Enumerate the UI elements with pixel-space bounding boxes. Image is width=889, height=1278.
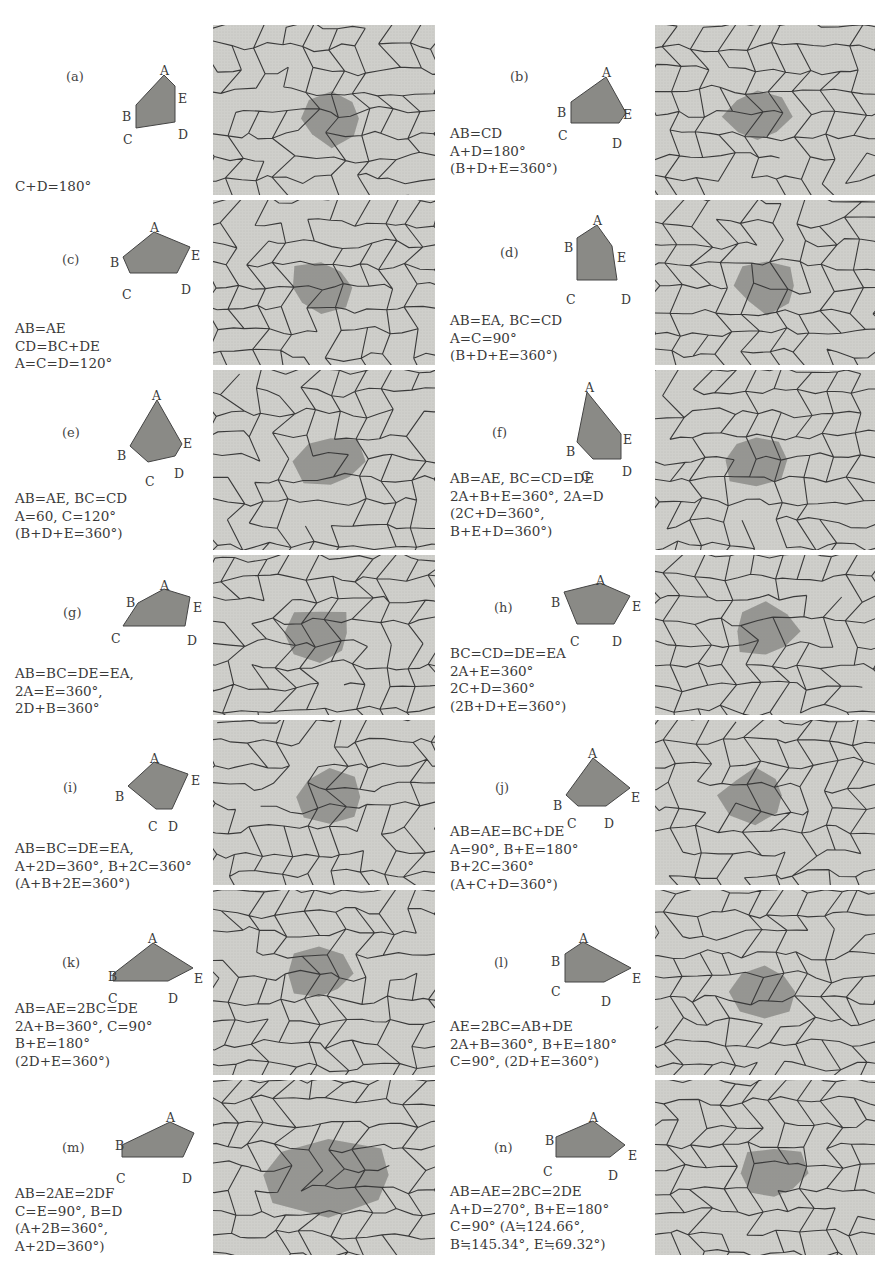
pentagon-shape: ABCDE [440, 200, 660, 340]
condition-line: A=C=D=120° [15, 355, 112, 373]
vertex-label-d: D [621, 292, 631, 307]
vertex-label-c: C [108, 991, 118, 1006]
vertex-label-c: C [148, 819, 158, 834]
vertex-label-d: D [181, 282, 191, 297]
condition-line: (B+D+E=360°) [450, 347, 562, 365]
vertex-label-c: C [145, 474, 155, 489]
vertex-label-a: A [149, 220, 160, 235]
condition-line: B+2C=360° [450, 858, 579, 876]
pentagon-shape: ABCDE [440, 555, 660, 695]
vertex-label-a: A [149, 751, 160, 766]
tiling-pattern [655, 890, 875, 1075]
pentagon-shape: ABCDE [0, 720, 220, 860]
vertex-label-e: E [617, 250, 626, 265]
vertex-label-e: E [623, 432, 632, 447]
vertex-label-b: B [551, 595, 560, 610]
condition-line: (A+B+2E=360°) [15, 875, 192, 893]
vertex-label-c: C [122, 287, 132, 302]
vertex-label-b: B [545, 1133, 554, 1148]
vertex-label-c: C [543, 1164, 553, 1179]
vertex-label-b: B [553, 798, 562, 813]
tiling-pattern [213, 370, 435, 550]
vertex-label-c: C [123, 132, 133, 147]
condition-line: 2D+B=360° [15, 700, 134, 718]
pentagon-shape: ABCDE [0, 400, 220, 540]
vertex-label-c: C [567, 816, 577, 831]
vertex-label-d: D [604, 816, 614, 831]
tiling-pattern [213, 25, 435, 195]
tiling-pattern [213, 555, 435, 715]
condition-line: (A+C+D=360°) [450, 876, 579, 894]
vertex-label-a: A [587, 746, 598, 761]
vertex-label-d: D [178, 127, 188, 142]
tiling-pattern [655, 1080, 875, 1255]
vertex-label-b: B [564, 240, 573, 255]
pentagon-shape: ABCDE [440, 1085, 660, 1225]
vertex-label-a: A [578, 931, 589, 946]
tiling-pattern [213, 720, 435, 885]
vertex-label-d: D [601, 994, 611, 1009]
vertex-label-b: B [126, 595, 135, 610]
vertex-label-e: E [628, 1148, 637, 1163]
vertex-label-c: C [570, 634, 580, 649]
vertex-label-c: C [551, 984, 561, 999]
vertex-label-b: B [115, 789, 124, 804]
vertex-label-b: B [557, 105, 566, 120]
tiling-pattern [655, 200, 875, 365]
vertex-label-e: E [191, 773, 200, 788]
tiling-pattern [655, 720, 875, 885]
vertex-label-c: C [566, 292, 576, 307]
vertex-label-c: C [558, 128, 568, 143]
vertex-label-e: E [632, 599, 641, 614]
pentagon-shape: ABCDE [440, 720, 660, 860]
vertex-label-d: D [168, 991, 178, 1006]
pentagon-shape: ABCDE [440, 900, 660, 1040]
tiling-pattern [655, 555, 875, 715]
vertex-label-d: D [174, 466, 184, 481]
vertex-label-e: E [191, 248, 200, 263]
condition-line: CD=BC+DE [15, 338, 112, 356]
vertex-label-c: C [581, 469, 591, 484]
tiling-pattern [213, 200, 435, 365]
condition-line: (2D+E=360°) [15, 1053, 153, 1071]
vertex-label-e: E [632, 971, 641, 986]
pentagon-shape: ABCD [0, 1085, 220, 1225]
condition-line: C=90°, (2D+E=360°) [450, 1053, 617, 1071]
vertex-label-e: E [623, 107, 632, 122]
vertex-label-a: A [159, 63, 170, 78]
condition-line: A+2D=360°, B+2C=360° [15, 858, 192, 876]
vertex-label-a: A [592, 213, 603, 228]
vertex-label-e: E [183, 436, 192, 451]
vertex-label-d: D [187, 633, 197, 648]
pentagon-shape: ABCDE [0, 200, 220, 340]
condition-line: A+2D=360°) [15, 1238, 122, 1256]
vertex-label-d: D [612, 136, 622, 151]
vertex-label-d: D [622, 464, 632, 479]
vertex-label-e: E [631, 790, 640, 805]
vertex-label-a: A [588, 1110, 599, 1125]
vertex-label-a: A [151, 388, 162, 403]
pentagon-shape: ABCDE [0, 900, 220, 1040]
vertex-label-b: B [551, 954, 560, 969]
vertex-label-e: E [193, 600, 202, 615]
vertex-label-c: C [111, 631, 121, 646]
vertex-label-a: A [601, 65, 612, 80]
vertex-label-b: B [110, 255, 119, 270]
condition-line: B≒145.34°, E≒69.32°) [450, 1236, 609, 1254]
vertex-label-b: B [115, 1138, 124, 1153]
vertex-label-a: A [147, 931, 158, 946]
tiling-pattern [655, 25, 875, 195]
pentagon-shape: ABCDE [0, 25, 220, 165]
pentagon-shape: ABCDE [440, 25, 660, 165]
vertex-label-d: D [612, 634, 622, 649]
vertex-label-a: A [584, 380, 595, 395]
condition-line: C+D=180° [15, 178, 91, 196]
condition-line: (2B+D+E=360°) [450, 698, 566, 716]
vertex-label-e: E [194, 971, 203, 986]
vertex-label-c: C [116, 1171, 126, 1186]
panel-conditions: C+D=180° [15, 178, 91, 196]
vertex-label-a: A [159, 578, 170, 593]
vertex-label-b: B [117, 448, 126, 463]
tiling-pattern [655, 370, 875, 550]
vertex-label-e: E [178, 91, 187, 106]
